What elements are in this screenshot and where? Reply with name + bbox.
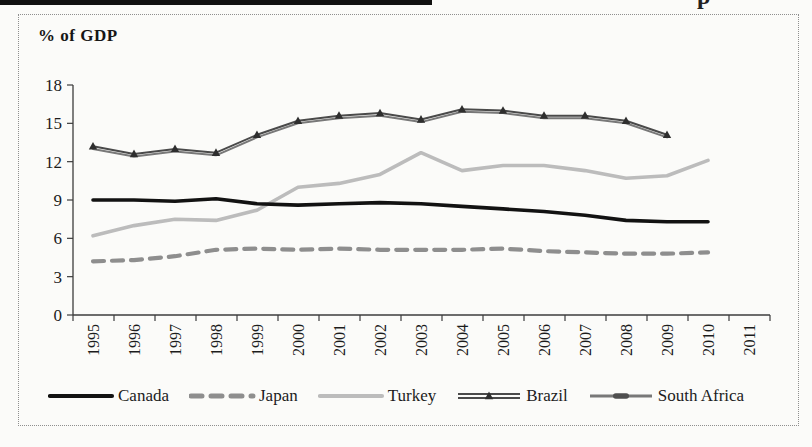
x-tick-label: 2005 [495,324,512,356]
legend-sample-japan [189,388,257,404]
y-tick-label: 18 [45,76,62,95]
y-tick-label: 3 [54,268,63,287]
x-tick-label: 2001 [331,324,348,356]
y-tick-label: 0 [54,306,63,325]
x-tick-label: 2002 [372,324,389,356]
x-tick-label: 1995 [85,324,102,356]
legend-sample-brazil [456,388,524,404]
x-tick-label: 2003 [413,324,430,356]
x-tick-label: 2004 [454,324,471,356]
y-tick-label: 12 [45,153,62,172]
legend-item-south-africa: South Africa [588,386,744,406]
legend-label-south-africa: South Africa [658,386,744,406]
x-tick-label: 2000 [290,324,307,356]
brazil-triangle-marker [89,142,97,150]
x-tick-label: 1996 [126,324,143,356]
legend-sample-south-africa [588,388,656,404]
x-tick-label: 1997 [167,324,184,356]
y-tick-label: 15 [45,114,62,133]
x-tick-label: 1998 [208,324,225,356]
chart-legend: CanadaJapanTurkeyBrazilSouth Africa [48,383,788,409]
legend-label-japan: Japan [259,386,298,406]
legend-item-japan: Japan [189,386,298,406]
legend-item-turkey: Turkey [318,386,437,406]
legend-dash-marker [613,393,629,399]
y-tick-label: 6 [54,229,63,248]
legend-sample-turkey [318,388,386,404]
x-tick-label: 1999 [249,324,266,356]
x-tick-label: 2008 [618,324,635,356]
legend-label-turkey: Turkey [388,386,437,406]
legend-label-brazil: Brazil [526,386,568,406]
legend-label-canada: Canada [118,386,169,406]
y-tick-label: 9 [54,191,63,210]
japan-line [93,249,708,262]
x-tick-label: 2006 [536,324,553,356]
x-tick-label: 2010 [700,324,717,356]
turkey-line [93,153,708,236]
page: { "page": { "fragment_top_right": "p" },… [0,0,812,447]
chart-canvas: 0369121518199519961997199819992000200120… [0,0,812,447]
legend-item-canada: Canada [48,386,169,406]
legend-sample-canada [48,388,116,404]
legend-triangle-marker [485,392,493,400]
x-tick-label: 2007 [577,324,594,356]
x-tick-label: 2009 [659,324,676,356]
legend-item-brazil: Brazil [456,386,568,406]
x-tick-label: 2011 [741,324,758,355]
